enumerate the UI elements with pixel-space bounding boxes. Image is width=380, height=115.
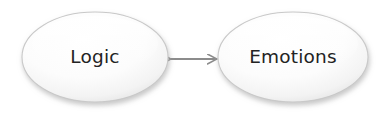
concept-diagram: Logic Emotions xyxy=(0,0,380,115)
node-logic[interactable]: Logic xyxy=(22,12,168,102)
node-logic-label: Logic xyxy=(70,46,119,67)
node-emotions[interactable]: Emotions xyxy=(218,12,368,102)
node-emotions-label: Emotions xyxy=(249,46,337,67)
diagram-canvas: Logic Emotions xyxy=(0,0,380,115)
